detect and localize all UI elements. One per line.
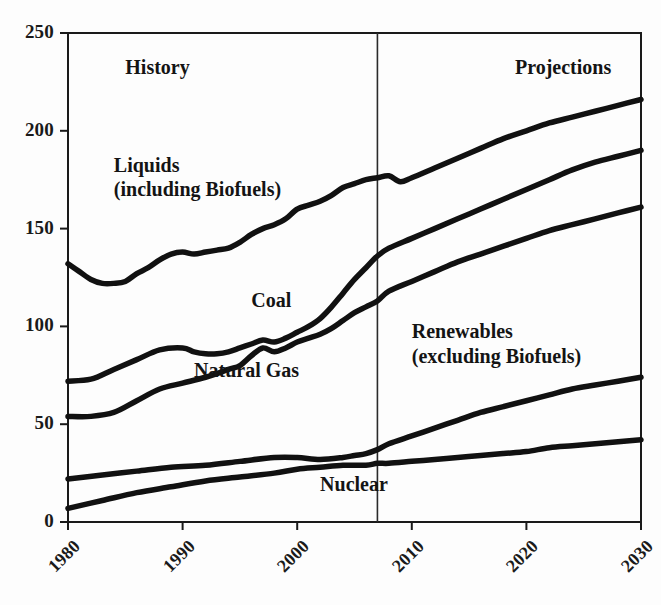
y-tick-label: 0 — [0, 510, 54, 532]
chart-plot-svg — [0, 0, 661, 605]
annotation-coal: Coal — [251, 288, 291, 312]
annotation-projections: Projections — [515, 55, 611, 79]
annotation-nuclear: Nuclear — [320, 472, 388, 496]
annotation-renewables-line2: (excluding Biofuels) — [412, 345, 581, 367]
annotation-renewables: Renewables (excluding Biofuels) — [412, 319, 581, 368]
y-tick-label: 100 — [0, 314, 54, 336]
annotation-liquids: Liquids (including Biofuels) — [114, 153, 281, 202]
annotation-natural-gas: Natural Gas — [194, 358, 299, 382]
annotation-renewables-line1: Renewables — [412, 320, 513, 342]
y-axis-ticks — [60, 33, 68, 522]
x-axis-ticks — [68, 522, 641, 530]
y-tick-label: 200 — [0, 119, 54, 141]
annotation-liquids-line2: (including Biofuels) — [114, 178, 281, 200]
annotation-history: History — [125, 55, 189, 79]
y-tick-label: 250 — [0, 21, 54, 43]
annotation-liquids-line1: Liquids — [114, 154, 180, 176]
chart-container: 050100150200250 198019902000201020202030… — [0, 0, 661, 605]
series-line-natural-gas — [68, 207, 641, 417]
y-tick-label: 150 — [0, 217, 54, 239]
y-tick-label: 50 — [0, 412, 54, 434]
